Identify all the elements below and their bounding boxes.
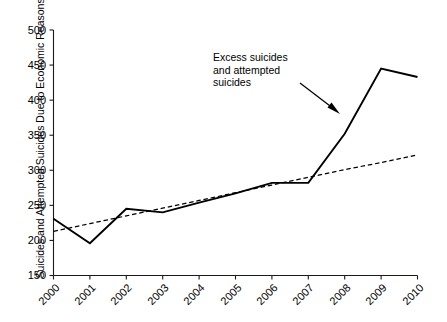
x-axis-ticks	[54, 276, 418, 280]
chart-plot-area	[0, 0, 447, 322]
chart-annotation-label: Excess suicides and attempted suicides	[213, 51, 288, 89]
y-axis-title: Suicides and Attempted Suicides Due to E…	[35, 29, 46, 279]
chart-figure: 150200250300350400450500 200020012002200…	[0, 0, 447, 322]
annotation-arrow-icon	[300, 83, 340, 114]
suicides-line-series	[54, 69, 418, 244]
y-axis-ticks	[50, 30, 54, 276]
